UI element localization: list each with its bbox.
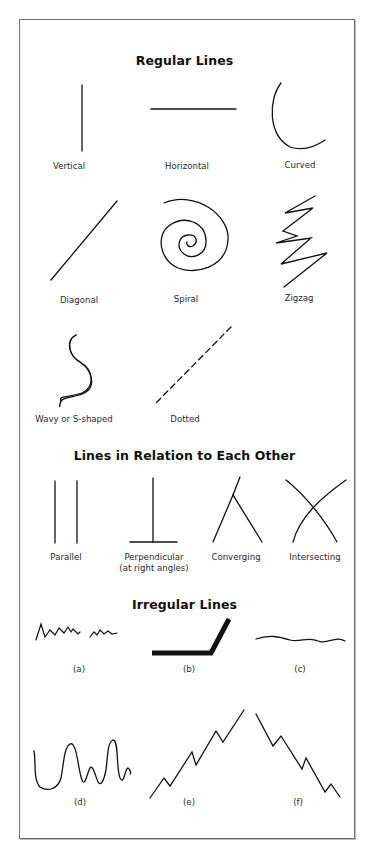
label-curved: Curved bbox=[285, 160, 316, 171]
label-diagonal: Diagonal bbox=[60, 295, 98, 306]
label-d: (d) bbox=[74, 797, 86, 808]
intersecting-line-a-icon bbox=[286, 480, 337, 542]
irregular-b-icon bbox=[152, 619, 229, 653]
label-wavy: Wavy or S-shaped bbox=[35, 414, 113, 425]
label-vertical: Vertical bbox=[53, 161, 85, 172]
label-perpendicular-sub: (at right angles) bbox=[119, 563, 188, 574]
curved-line-icon bbox=[272, 83, 325, 149]
irregular-e-icon bbox=[150, 710, 244, 798]
label-spiral: Spiral bbox=[174, 294, 199, 305]
spiral-line-icon bbox=[161, 199, 228, 270]
converging-line-icon bbox=[213, 495, 262, 542]
label-e: (e) bbox=[183, 797, 195, 808]
label-intersecting: Intersecting bbox=[289, 552, 340, 563]
zigzag-line-icon bbox=[276, 196, 327, 287]
label-zigzag: Zigzag bbox=[285, 293, 314, 304]
intersecting-line-b-icon bbox=[293, 480, 346, 542]
label-converging: Converging bbox=[211, 552, 260, 563]
diagonal-line-icon bbox=[51, 201, 117, 280]
label-perpendicular: Perpendicular bbox=[124, 552, 183, 563]
label-b: (b) bbox=[183, 664, 195, 675]
irregular-c-icon bbox=[256, 636, 345, 642]
irregular-d-icon bbox=[34, 740, 131, 789]
line-drawings bbox=[0, 0, 369, 857]
label-parallel: Parallel bbox=[50, 552, 81, 563]
irregular-f-icon bbox=[256, 714, 340, 797]
dotted-line-icon bbox=[156, 327, 231, 403]
label-f: (f) bbox=[293, 797, 303, 808]
label-a: (a) bbox=[73, 664, 85, 675]
label-horizontal: Horizontal bbox=[165, 161, 209, 172]
label-dotted: Dotted bbox=[170, 414, 199, 425]
label-c: (c) bbox=[294, 664, 305, 675]
wavy-line-icon bbox=[60, 335, 92, 406]
irregular-a-icon bbox=[36, 624, 80, 640]
